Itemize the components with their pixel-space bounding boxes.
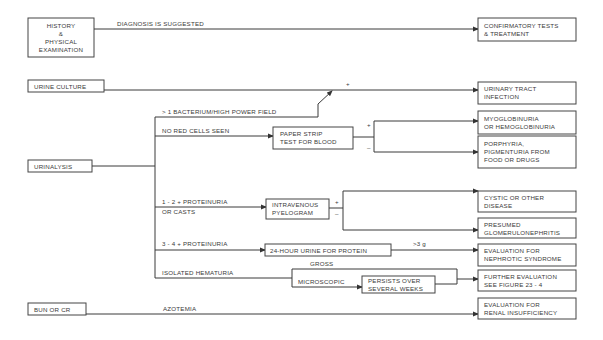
- renal-label-2: RENAL INSUFFICIENCY: [484, 309, 557, 316]
- label-strip-minus: –: [367, 144, 371, 151]
- label-gross: GROSS: [310, 260, 333, 267]
- ivp-label-1: INTRAVENOUS: [272, 201, 318, 208]
- label-ivp-minus: –: [335, 210, 339, 217]
- bun-label: BUN OR CR: [34, 306, 71, 313]
- myoglobinuria-label-2: OR HEMOGLOBINURIA: [484, 123, 556, 130]
- confirmatory-node: CONFIRMATORY TESTS & TREATMENT: [478, 18, 576, 41]
- uti-label-1: URINARY TRACT: [484, 85, 536, 92]
- history-label-1: HISTORY: [47, 22, 76, 29]
- paper-strip-label-1: PAPER STRIP: [280, 130, 323, 137]
- cystic-label-2: DISEASE: [484, 202, 512, 209]
- urinalysis-label: URINALYSIS: [34, 163, 72, 170]
- nephrotic-label-1: EVALUATION FOR: [484, 247, 540, 254]
- label-no-red-cells: NO RED CELLS SEEN: [162, 127, 229, 134]
- label-isolated-hematuria: ISOLATED HEMATURIA: [162, 269, 234, 276]
- porphyria-label-1: PORPHYRIA,: [484, 140, 524, 147]
- further-eval-label-1: FURTHER EVALUATION: [484, 273, 557, 280]
- uti-label-2: INFECTION: [484, 93, 519, 100]
- glomerulonephritis-node: PRESUMED GLOMERULONEPHRITIS: [478, 218, 576, 238]
- urine-culture-node: URINE CULTURE: [28, 80, 104, 92]
- label-diagnosis-suggested: DIAGNOSIS IS SUGGESTED: [117, 20, 204, 27]
- urinalysis-node: URINALYSIS: [28, 160, 92, 172]
- label-culture-plus: +: [346, 80, 350, 87]
- renal-node: EVALUATION FOR RENAL INSUFFICIENCY: [478, 298, 576, 319]
- bun-node: BUN OR CR: [28, 303, 86, 315]
- confirmatory-label-1: CONFIRMATORY TESTS: [484, 22, 559, 29]
- nephrotic-label-2: NEPHROTIC SYNDROME: [484, 255, 562, 262]
- further-eval-label-2: SEE FIGURE 23 - 4: [484, 281, 543, 288]
- urine24-node: 24-HOUR URINE FOR PROTEIN: [265, 244, 391, 256]
- porphyria-label-3: FOOD OR DRUGS: [484, 156, 540, 163]
- confirmatory-label-2: & TREATMENT: [484, 30, 529, 37]
- persists-label-2: SEVERAL WEEKS: [368, 285, 423, 292]
- urine-culture-label: URINE CULTURE: [34, 83, 86, 90]
- paper-strip-label-2: TEST FOR BLOOD: [280, 138, 337, 145]
- label-gt3g: >3 g: [413, 240, 426, 247]
- history-label-3: PHYSICAL: [45, 38, 78, 45]
- history-node: HISTORY & PHYSICAL EXAMINATION: [28, 18, 94, 57]
- label-azotemia: AZOTEMIA: [163, 305, 197, 312]
- label-or-casts: OR CASTS: [162, 208, 195, 215]
- label-ivp-plus: +: [335, 198, 339, 205]
- persists-node: PERSISTS OVER SEVERAL WEEKS: [362, 276, 435, 293]
- paper-strip-node: PAPER STRIP TEST FOR BLOOD: [273, 127, 353, 149]
- history-label-2: &: [59, 30, 64, 37]
- flowchart-canvas: HISTORY & PHYSICAL EXAMINATION DIAGNOSIS…: [0, 0, 603, 340]
- myoglobinuria-label-1: MYOGLOBINURIA: [484, 115, 540, 122]
- label-proteinuria-34: 3 - 4 + PROTEINURIA: [162, 240, 228, 247]
- porphyria-node: PORPHYRIA, PIGMENTURIA FROM FOOD OR DRUG…: [478, 136, 576, 168]
- label-proteinuria-12: 1 - 2 + PROTEINURIA: [162, 198, 228, 205]
- label-microscopic: MICROSCOPIC: [298, 278, 345, 285]
- cystic-node: CYSTIC OR OTHER DISEASE: [478, 191, 576, 212]
- history-label-4: EXAMINATION: [39, 46, 83, 53]
- glomerulonephritis-label-2: GLOMERULONEPHRITIS: [484, 229, 560, 236]
- label-bacterium: > 1 BACTERIUM/HIGH POWER FIELD: [162, 108, 277, 115]
- myoglobinuria-node: MYOGLOBINURIA OR HEMOGLOBINURIA: [478, 111, 576, 134]
- porphyria-label-2: PIGMENTURIA FROM: [484, 148, 550, 155]
- uti-node: URINARY TRACT INFECTION: [478, 82, 576, 104]
- renal-label-1: EVALUATION FOR: [484, 301, 540, 308]
- urine24-label: 24-HOUR URINE FOR PROTEIN: [270, 247, 367, 254]
- edge-persists-out: [435, 279, 457, 284]
- persists-label-1: PERSISTS OVER: [368, 277, 421, 284]
- glomerulonephritis-label-1: PRESUMED: [484, 221, 521, 228]
- label-strip-plus: +: [367, 121, 371, 128]
- ivp-node: INTRAVENOUS PYELOGRAM: [266, 199, 329, 219]
- cystic-label-1: CYSTIC OR OTHER: [484, 194, 544, 201]
- nephrotic-node: EVALUATION FOR NEPHROTIC SYNDROME: [478, 244, 576, 266]
- further-eval-node: FURTHER EVALUATION SEE FIGURE 23 - 4: [478, 270, 576, 291]
- ivp-label-2: PYELOGRAM: [272, 209, 313, 216]
